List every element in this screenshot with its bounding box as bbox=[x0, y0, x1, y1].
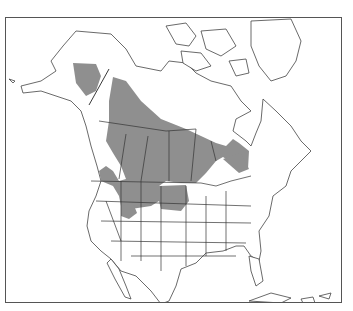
north-america-map bbox=[6, 18, 342, 303]
range-map bbox=[5, 17, 342, 303]
